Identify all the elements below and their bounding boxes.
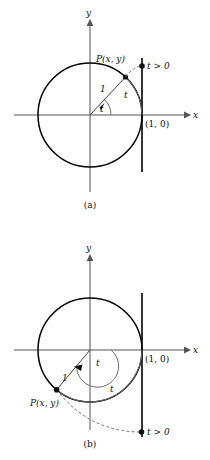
- arc-label-b: t: [110, 384, 114, 394]
- intercept-label-a: (1, 0): [145, 119, 169, 129]
- caption-b: (b): [84, 439, 97, 449]
- circle-arc-a: [126, 77, 143, 115]
- terminal-label-b: t > 0: [147, 427, 170, 437]
- y-axis-arrow-b: [87, 254, 94, 261]
- unwrap-curve-a: [126, 66, 143, 77]
- x-axis-label-a: x: [193, 110, 198, 120]
- unwrap-curve-b: [60, 394, 141, 432]
- figure-container: x y 1 t t P(x, y) t > 0 (1, 0) (a): [0, 0, 210, 460]
- y-axis-label-a: y: [85, 8, 92, 18]
- angle-arc-b: [77, 350, 119, 387]
- caption-a: (a): [84, 200, 96, 210]
- point-p-label-b: P(x, y): [29, 398, 59, 408]
- x-axis-arrow-a: [184, 112, 191, 119]
- terminal-point-a: [139, 63, 145, 69]
- intercept-label-b: (1, 0): [145, 354, 169, 364]
- panel-b: x y 1 t t P(x, y) t > 0 (1, 0) (b): [14, 243, 198, 449]
- angle-label-a: t: [100, 104, 104, 114]
- unit-circle-figure: x y 1 t t P(x, y) t > 0 (1, 0) (a): [0, 0, 210, 460]
- angle-arc-a: [104, 100, 111, 115]
- radius-segment-b: [57, 350, 90, 390]
- radius-segment-a: [90, 77, 126, 115]
- radius-label-b: 1: [62, 373, 68, 383]
- radius-label-a: 1: [100, 84, 106, 94]
- arc-label-a: t: [124, 90, 128, 100]
- point-p-label-a: P(x, y): [95, 54, 125, 64]
- angle-label-b: t: [96, 358, 100, 368]
- y-axis-label-b: y: [85, 243, 92, 253]
- point-p-b: [54, 387, 60, 393]
- x-axis-label-b: x: [193, 345, 198, 355]
- terminal-label-a: t > 0: [147, 61, 170, 71]
- panel-a: x y 1 t t P(x, y) t > 0 (1, 0) (a): [14, 8, 198, 210]
- terminal-point-b: [139, 429, 145, 435]
- x-axis-arrow-b: [184, 347, 191, 354]
- y-axis-arrow-a: [87, 19, 94, 26]
